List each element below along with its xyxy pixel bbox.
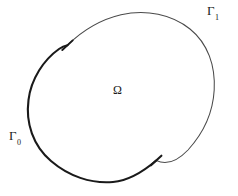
interior-label-omega: Ω [113, 84, 122, 96]
boundary-label-gamma-one: Γ1 [207, 4, 219, 21]
tick-lower-right [151, 156, 161, 166]
gamma-zero-subscript: 0 [17, 138, 21, 147]
boundary-label-gamma-zero: Γ0 [9, 129, 21, 146]
gamma-one-base: Γ [207, 3, 215, 18]
gamma-1-arc [68, 12, 215, 162]
figure-canvas: Γ1 Γ0 Ω [0, 0, 238, 196]
gamma-0-arc [28, 45, 156, 182]
domain-diagram [0, 0, 238, 196]
gamma-zero-base: Γ [9, 128, 17, 143]
gamma-one-subscript: 1 [215, 13, 219, 22]
